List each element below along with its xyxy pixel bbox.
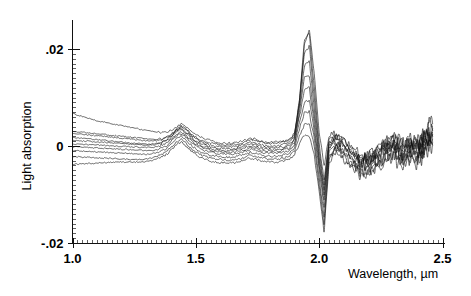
- spectrum-curve: [73, 30, 433, 165]
- x-tick-label: 2.5: [433, 251, 451, 266]
- y-tick-label: -.02: [41, 236, 63, 251]
- light-absorption-chart: .020-.02 1.01.52.02.5 Light absorption W…: [0, 0, 471, 296]
- y-tick-label: 0: [56, 139, 63, 154]
- x-tick-label: 1.5: [187, 251, 205, 266]
- spectra-figure: .020-.02 1.01.52.02.5 Light absorption W…: [0, 0, 471, 296]
- x-tick-label: 2.0: [310, 251, 328, 266]
- spectrum-curve: [73, 61, 433, 190]
- y-axis-title: Light absorption: [20, 101, 34, 190]
- x-axis-tick-labels: 1.01.52.02.5: [63, 251, 451, 266]
- spectrum-curve: [73, 76, 433, 195]
- spectrum-curve: [73, 135, 433, 232]
- y-tick-label: .02: [45, 42, 63, 57]
- y-axis-tick-labels: .020-.02: [41, 42, 63, 251]
- spectrum-curves: [73, 30, 433, 232]
- x-axis-title: Wavelength, µm: [348, 267, 438, 281]
- x-tick-label: 1.0: [63, 251, 81, 266]
- axis-major-ticks: [68, 50, 444, 248]
